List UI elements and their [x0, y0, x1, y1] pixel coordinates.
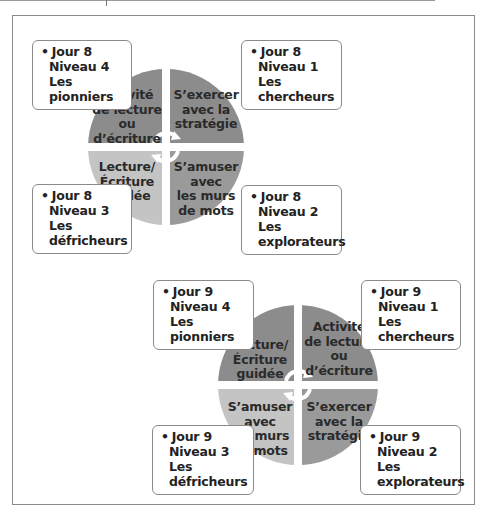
group-box-day9-level3: •Jour 9 Niveau 3 Les défricheurs: [152, 425, 254, 495]
bullet-icon: •: [162, 284, 170, 299]
group-box-day9-level2: •Jour 9 Niveau 2 Les explorateurs: [360, 425, 461, 495]
group-box-day9-level4: •Jour 9 Niveau 4 Les pionniers: [153, 280, 254, 350]
bullet-icon: •: [370, 284, 378, 299]
bullet-icon: •: [161, 429, 169, 444]
bullet-icon: •: [41, 44, 49, 59]
group-box-day8-level2: •Jour 8 Niveau 2 Les explorateurs: [241, 185, 342, 255]
bullet-icon: •: [250, 44, 258, 59]
bullet-icon: •: [250, 189, 258, 204]
group-box-day8-level4: •Jour 8 Niveau 4 Les pionniers: [32, 40, 132, 110]
header-tick: [106, 0, 107, 6]
group-box-day8-level1: •Jour 8 Niveau 1 Les chercheurs: [241, 40, 342, 110]
quadrant-label-top-right: S’exercer avec la stratégie: [172, 88, 240, 132]
group-box-day8-level3: •Jour 8 Niveau 3 Les défricheurs: [32, 184, 132, 254]
bullet-icon: •: [41, 188, 49, 203]
quadrant-label-bottom-right: S’amuser avec les murs de mots: [172, 160, 240, 218]
group-box-day9-level1: •Jour 9 Niveau 1 Les chercheurs: [361, 280, 461, 350]
page-header-rule: [0, 0, 435, 1]
bullet-icon: •: [369, 429, 377, 444]
